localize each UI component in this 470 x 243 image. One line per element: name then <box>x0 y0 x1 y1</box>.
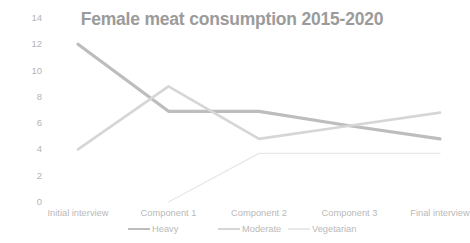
y-axis-tick-label: 14 <box>8 13 42 23</box>
legend-label: Vegetarian <box>312 224 356 235</box>
x-axis-tick-label: Component 2 <box>231 208 287 219</box>
legend-item-heavy[interactable]: Heavy <box>128 222 178 236</box>
series-line-vegetarian <box>169 153 441 202</box>
y-axis-tick-label: 12 <box>8 39 42 49</box>
y-axis-tick-label: 10 <box>8 66 42 76</box>
legend-swatch-icon <box>288 228 310 229</box>
x-axis-tick-label: Initial interview <box>48 208 109 219</box>
series-line-moderate <box>78 86 440 149</box>
y-axis-tick-label: 0 <box>8 197 42 207</box>
legend-label: Moderate <box>242 224 281 235</box>
legend-swatch-icon <box>218 228 240 231</box>
legend-item-moderate[interactable]: Moderate <box>218 222 281 236</box>
y-axis-tick-label: 6 <box>8 118 42 128</box>
chart-legend: HeavyModerateVegetarian <box>0 222 465 240</box>
legend-item-vegetarian[interactable]: Vegetarian <box>288 222 356 236</box>
y-axis-tick-label: 8 <box>8 92 42 102</box>
x-axis-tick-label: Component 1 <box>141 208 197 219</box>
y-axis-tick-label: 2 <box>8 171 42 181</box>
x-axis-tick-label: Component 3 <box>322 208 378 219</box>
legend-label: Heavy <box>152 224 178 235</box>
series-line-heavy <box>78 44 440 139</box>
legend-swatch-icon <box>128 228 150 231</box>
x-axis-tick-label: Final interview <box>410 208 469 219</box>
y-axis-tick-label: 4 <box>8 144 42 154</box>
